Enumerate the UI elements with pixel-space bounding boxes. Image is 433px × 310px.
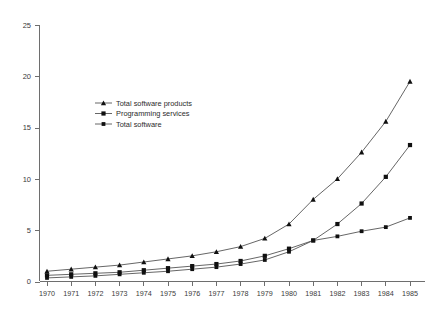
series-line xyxy=(47,218,410,278)
y-tick-label: 15 xyxy=(23,123,31,132)
x-tick-group: 1970197119721973197419751976197719781979… xyxy=(39,282,418,299)
data-point-marker xyxy=(263,258,267,262)
data-point-marker xyxy=(287,250,291,254)
x-tick-label: 1979 xyxy=(257,289,273,298)
legend-label: Total software xyxy=(116,120,162,129)
data-point-marker xyxy=(190,267,194,271)
data-point-marker xyxy=(336,234,340,238)
x-tick-label: 1973 xyxy=(112,289,128,298)
y-tick-label: 0 xyxy=(27,277,31,286)
x-tick-label: 1977 xyxy=(208,289,224,298)
line-chart: 0510152025 19701971197219731974197519761… xyxy=(0,0,433,310)
data-point-marker xyxy=(118,272,122,276)
x-tick-label: 1971 xyxy=(63,289,79,298)
legend-label: Total software products xyxy=(116,99,192,108)
data-point-marker xyxy=(215,265,219,269)
data-point-marker xyxy=(383,119,388,124)
x-tick-label: 1975 xyxy=(160,289,176,298)
x-tick-label: 1984 xyxy=(378,289,394,298)
data-point-marker xyxy=(407,79,412,84)
data-point-marker xyxy=(384,175,388,179)
x-tick-label: 1980 xyxy=(281,289,297,298)
data-point-marker xyxy=(69,275,73,279)
y-tick-label: 20 xyxy=(23,72,31,81)
data-point-marker xyxy=(142,271,146,275)
data-point-marker xyxy=(102,122,106,126)
y-tick-label: 5 xyxy=(27,226,31,235)
data-point-marker xyxy=(335,222,339,226)
data-point-marker xyxy=(263,254,267,258)
x-tick-label: 1981 xyxy=(305,289,321,298)
series-total-software xyxy=(45,216,412,280)
x-tick-label: 1974 xyxy=(136,289,152,298)
data-point-marker xyxy=(94,274,98,278)
legend-label: Programming services xyxy=(116,109,190,118)
data-point-marker xyxy=(408,216,412,220)
series-total-software-products xyxy=(44,79,412,274)
data-point-marker xyxy=(101,111,105,115)
x-tick-label: 1983 xyxy=(354,289,370,298)
data-point-marker xyxy=(262,236,267,241)
data-point-marker xyxy=(311,239,315,243)
y-tick-label: 25 xyxy=(23,21,31,30)
x-tick-label: 1982 xyxy=(329,289,345,298)
x-tick-label: 1978 xyxy=(233,289,249,298)
y-tick-label: 10 xyxy=(23,175,31,184)
x-tick-label: 1976 xyxy=(184,289,200,298)
data-point-marker xyxy=(384,225,388,229)
data-point-marker xyxy=(239,262,243,266)
x-tick-label: 1985 xyxy=(402,289,418,298)
data-point-marker xyxy=(45,276,49,280)
data-point-marker xyxy=(360,229,364,233)
chart-container: 0510152025 19701971197219731974197519761… xyxy=(0,0,433,310)
data-point-marker xyxy=(166,269,170,273)
y-tick-group: 0510152025 xyxy=(23,21,40,287)
data-point-marker xyxy=(408,143,412,147)
x-tick-label: 1972 xyxy=(87,289,103,298)
series-line xyxy=(47,145,410,275)
chart-legend: Total software productsProgramming servi… xyxy=(95,99,192,129)
data-point-marker xyxy=(360,201,364,205)
series-line xyxy=(47,81,410,271)
series-programming-services xyxy=(45,143,412,278)
series-group xyxy=(44,79,412,280)
x-tick-label: 1970 xyxy=(39,289,55,298)
